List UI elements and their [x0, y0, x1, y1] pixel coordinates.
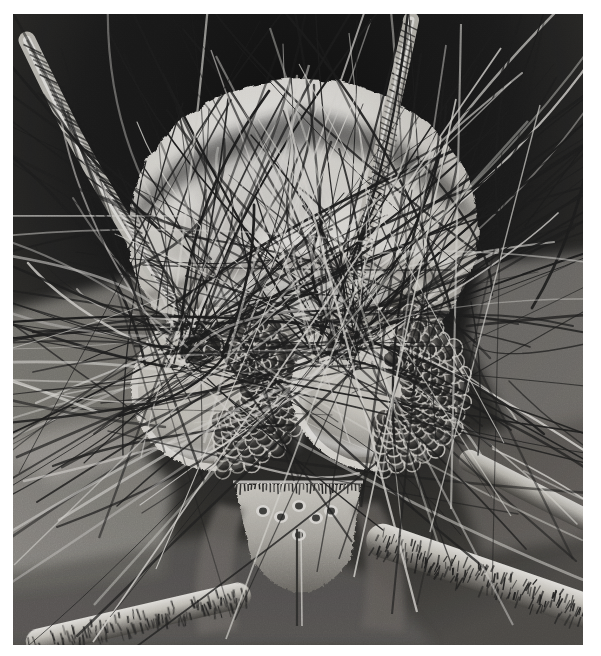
- micrograph-plate: [0, 0, 601, 656]
- micrograph-photo: [13, 14, 583, 645]
- film-grain: [13, 14, 583, 645]
- micrograph-canvas: [13, 14, 583, 645]
